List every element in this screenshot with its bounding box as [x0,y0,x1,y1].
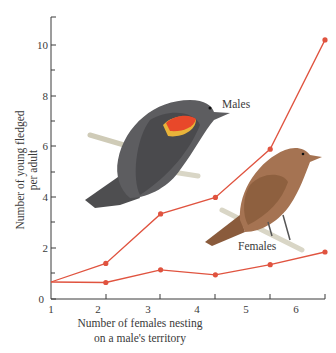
x-tick-label: 3 [145,303,151,315]
data-point [103,280,108,285]
males-label: Males [222,98,251,110]
females-label: Females [238,240,277,252]
y-tick-label: 8 [43,90,49,102]
data-point [213,272,218,277]
x-axis: 1 2 3 4 5 6 [48,294,325,315]
female-bird-illustration [205,148,322,250]
male-bird-illustration [85,100,230,208]
y-axis-title-line2: per adult [27,149,40,190]
data-point [213,195,218,200]
x-tick-label: 6 [293,303,299,315]
y-tick-label: 6 [43,140,49,152]
x-axis-title-line2: on a male's territory [94,332,186,345]
data-point [103,261,108,266]
y-tick-label: 2 [43,242,49,254]
y-tick-label: 0 [39,293,45,305]
y-axis: 0 2 4 6 8 10 [37,17,56,305]
x-tick-label: 2 [95,303,101,315]
x-tick-label: 4 [194,303,200,315]
data-point [322,249,327,254]
x-axis-title-line1: Number of females nesting [78,317,203,330]
y-tick-label: 10 [37,39,49,51]
y-axis-title-line1: Number of young fledged [14,110,27,229]
data-point [268,147,273,152]
x-tick-label: 5 [243,303,249,315]
x-tick-label: 1 [48,303,54,315]
line-chart: 0 2 4 6 8 10 1 2 3 4 5 6 Number of femal… [0,0,336,353]
y-tick-label: 4 [43,191,49,203]
data-point [158,267,163,272]
data-point [268,262,273,267]
data-point [158,211,163,216]
data-point [322,37,327,42]
